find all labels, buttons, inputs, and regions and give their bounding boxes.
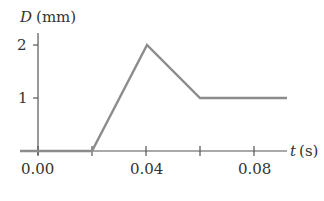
displacement-chart: D(mm) 2 1 0.00 0.04 0.08 t(s) — [0, 0, 324, 201]
x-tick-label-2: 0.04 — [130, 160, 163, 178]
x-axis-variable: t — [290, 142, 297, 160]
x-tick-label-4: 0.08 — [238, 160, 271, 178]
y-axis-variable: D — [19, 8, 32, 26]
x-axis-unit: (s) — [299, 142, 318, 160]
y-axis-title: D(mm) — [19, 8, 76, 26]
series-line — [20, 45, 287, 151]
x-tick-label-0: 0.00 — [21, 160, 54, 178]
y-tick-label-1: 1 — [18, 89, 28, 107]
y-tick-label-2: 2 — [17, 36, 27, 54]
x-axis-title: t(s) — [290, 142, 318, 160]
y-axis-unit: (mm) — [36, 8, 76, 26]
